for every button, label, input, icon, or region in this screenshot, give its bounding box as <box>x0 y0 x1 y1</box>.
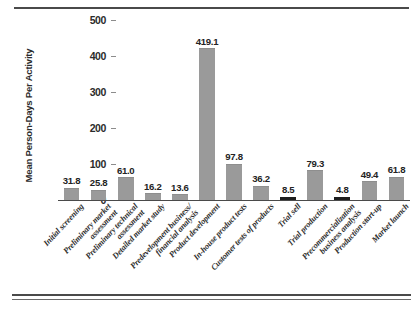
bar <box>64 188 80 200</box>
top-rule <box>14 7 409 9</box>
bar-slot: 61.0 <box>118 20 134 200</box>
bar-value-label: 61.0 <box>106 165 146 176</box>
bar <box>253 186 269 200</box>
bar-value-label: 13.6 <box>160 182 200 193</box>
bar-value-label: 8.5 <box>268 184 308 195</box>
bar-slot: 16.2 <box>145 20 161 200</box>
bar <box>145 193 161 200</box>
bar-value-label: 4.8 <box>322 184 362 195</box>
bar-slot: 419.1 <box>199 20 215 200</box>
x-axis-label-line: Trial sell <box>276 202 303 230</box>
bar-slot: 61.8 <box>389 20 405 200</box>
bar <box>280 197 296 200</box>
bar-slot: 13.6 <box>172 20 188 200</box>
bar <box>226 164 242 200</box>
bar <box>334 197 350 200</box>
bar <box>118 177 134 200</box>
bar-value-label: 61.8 <box>377 164 417 175</box>
bar-value-label: 97.8 <box>214 151 254 162</box>
bar <box>172 194 188 200</box>
bar-slot: 36.2 <box>253 20 269 200</box>
bar-slot: 97.8 <box>226 20 242 200</box>
bar <box>389 177 405 200</box>
bottom-rule-upper <box>12 294 411 296</box>
bar-slot: 25.8 <box>91 20 107 200</box>
bar <box>307 170 323 200</box>
bar <box>91 190 107 200</box>
bottom-rule-lower <box>12 299 411 300</box>
bar <box>199 48 215 200</box>
bar <box>362 181 378 200</box>
bar-value-label: 79.3 <box>295 158 335 169</box>
x-axis-label: Trial sell <box>276 202 303 230</box>
bar-value-label: 419.1 <box>187 36 227 47</box>
bar-slot: 31.8 <box>64 20 80 200</box>
bar-value-label: 36.2 <box>241 173 281 184</box>
bar-slot: 79.3 <box>307 20 323 200</box>
bar-slot: 8.5 <box>280 20 296 200</box>
bar-value-label: 25.8 <box>79 177 119 188</box>
bar-slot: 49.4 <box>362 20 378 200</box>
y-axis-title: Mean Person-Days Per Activity <box>23 26 34 206</box>
figure-bar-chart: Mean Person-Days Per Activity 0100200300… <box>0 0 419 314</box>
bars-container: 31.825.861.016.213.6419.197.836.28.579.3… <box>58 20 410 200</box>
x-axis-labels: Initial screeningPreliminary marketasses… <box>58 202 410 294</box>
bar-slot: 4.8 <box>334 20 350 200</box>
